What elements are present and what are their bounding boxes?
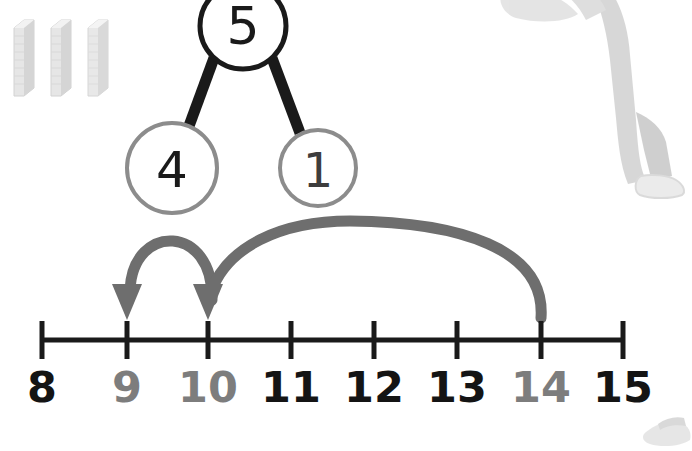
tick-label-13: 13: [422, 366, 492, 409]
worksheet-canvas: 5 4 1 8 9 10 11 12 13 14 15: [0, 0, 692, 451]
tick-label-15: 15: [588, 366, 658, 409]
tick-label-14: 14: [506, 366, 576, 409]
tick-label-10: 10: [173, 366, 243, 409]
tick-label-9: 9: [92, 366, 162, 409]
tick-label-11: 11: [256, 366, 326, 409]
tick-label-12: 12: [339, 366, 409, 409]
tick-label-8: 8: [7, 366, 77, 409]
